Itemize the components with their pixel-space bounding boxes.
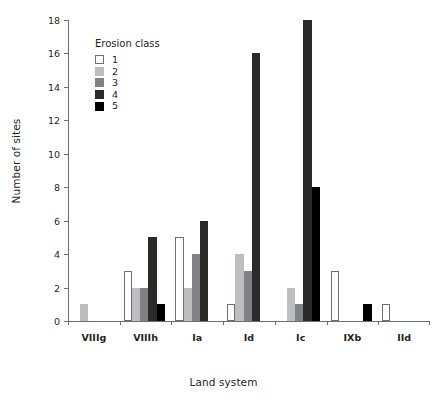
x-tick-mark — [275, 321, 276, 325]
x-tick-label-ic: Ic — [296, 332, 305, 343]
x-tick-mark — [171, 321, 172, 325]
bar-ic-class-2 — [287, 288, 295, 321]
legend-item-class-2: 2 — [95, 66, 160, 78]
y-axis-line — [68, 20, 69, 322]
x-tick-mark — [327, 321, 328, 325]
bar-ic-class-3 — [295, 304, 303, 321]
legend-item-class-3: 3 — [95, 77, 160, 89]
y-tick-mark — [64, 288, 68, 289]
bar-viiih-class-4 — [148, 237, 156, 321]
legend-swatch-class-1 — [95, 55, 104, 64]
x-tick-mark — [378, 321, 379, 325]
legend-label-class-3: 3 — [112, 78, 118, 88]
legend-title: Erosion class — [95, 38, 160, 49]
bar-id-class-4 — [252, 53, 260, 321]
legend-item-class-4: 4 — [95, 89, 160, 101]
x-tick-label-ixb: IXb — [344, 332, 362, 343]
legend-swatch-class-3 — [95, 78, 104, 87]
y-tick-mark — [64, 221, 68, 222]
x-tick-mark — [429, 321, 430, 325]
legend: Erosion class 12345 — [95, 38, 160, 112]
y-tick-label: 8 — [54, 182, 60, 193]
y-tick-label: 16 — [48, 48, 60, 59]
x-axis-title: Land system — [0, 376, 447, 388]
bar-id-class-3 — [244, 271, 252, 321]
legend-item-class-1: 1 — [95, 54, 160, 66]
y-tick-label: 2 — [54, 282, 60, 293]
x-tick-label-iid: IId — [397, 332, 411, 343]
legend-label-class-1: 1 — [112, 55, 118, 65]
y-tick-label: 4 — [54, 249, 60, 260]
legend-swatch-class-2 — [95, 67, 104, 76]
y-tick-mark — [64, 87, 68, 88]
y-tick-label: 10 — [48, 148, 60, 159]
bar-viiih-class-3 — [140, 288, 148, 321]
y-tick-mark — [64, 187, 68, 188]
bar-viiih-class-5 — [157, 304, 165, 321]
legend-item-class-5: 5 — [95, 100, 160, 112]
x-tick-mark — [120, 321, 121, 325]
y-tick-label: 0 — [54, 316, 60, 327]
bar-id-class-2 — [235, 254, 243, 321]
bar-viiih-class-2 — [132, 288, 140, 321]
bar-viiih-class-1 — [124, 271, 132, 321]
legend-label-class-5: 5 — [112, 101, 118, 111]
y-tick-mark — [64, 254, 68, 255]
y-tick-label: 18 — [48, 15, 60, 26]
bar-id-class-1 — [227, 304, 235, 321]
bar-ic-class-5 — [312, 187, 320, 321]
legend-label-class-4: 4 — [112, 90, 118, 100]
x-tick-mark — [223, 321, 224, 325]
bar-ia-class-2 — [184, 288, 192, 321]
bar-ia-class-3 — [192, 254, 200, 321]
legend-swatch-class-4 — [95, 90, 104, 99]
bar-chart: Number of sites Land system 024681012141… — [0, 0, 447, 408]
bar-iid-class-1 — [382, 304, 390, 321]
y-tick-label: 14 — [48, 81, 60, 92]
x-tick-mark — [68, 321, 69, 325]
y-tick-label: 6 — [54, 215, 60, 226]
bar-ixb-class-1 — [331, 271, 339, 321]
legend-swatch-class-5 — [95, 102, 104, 111]
legend-label-class-2: 2 — [112, 67, 118, 77]
y-tick-mark — [64, 120, 68, 121]
y-tick-label: 12 — [48, 115, 60, 126]
y-tick-mark — [64, 53, 68, 54]
bar-ia-class-1 — [175, 237, 183, 321]
x-axis-line — [68, 321, 430, 322]
bar-ixb-class-5 — [363, 304, 371, 321]
y-tick-mark — [64, 154, 68, 155]
x-tick-label-id: Id — [244, 332, 254, 343]
x-tick-label-viiig: VIIIg — [81, 332, 106, 343]
y-tick-mark — [64, 20, 68, 21]
x-tick-label-ia: Ia — [192, 332, 202, 343]
y-axis-title: Number of sites — [10, 96, 22, 226]
legend-entries: 12345 — [95, 54, 160, 112]
bar-ia-class-4 — [200, 221, 208, 321]
bar-viiig-class-2 — [80, 304, 88, 321]
bar-ic-class-4 — [303, 20, 311, 321]
x-tick-label-viiih: VIIIh — [133, 332, 158, 343]
